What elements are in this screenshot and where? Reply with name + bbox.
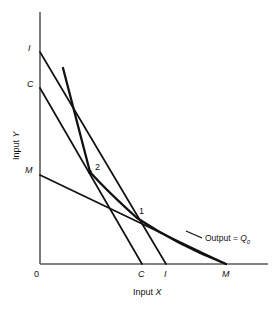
- output-annotation-symbol: Q: [240, 233, 247, 243]
- x-intercept-label-m: M: [222, 270, 230, 279]
- point-2-label: 2: [95, 163, 100, 172]
- diagram-canvas: [0, 0, 278, 315]
- x-axis-title: Input X: [133, 288, 162, 297]
- point-2-marker: [88, 170, 92, 174]
- y-intercept-label-c: C: [27, 80, 34, 89]
- isocost-line-c: [40, 88, 142, 264]
- isoquant-curve-q0: [63, 68, 226, 264]
- x-intercept-label-c: C: [138, 270, 145, 279]
- y-intercept-label-i: I: [28, 44, 31, 53]
- isoquant-isocost-figure: I C M 0 C I M 2 1 Output = Q0 Input Y In…: [0, 0, 278, 315]
- y-intercept-label-m: M: [25, 166, 33, 175]
- isocost-line-i: [40, 52, 166, 264]
- x-axis-title-text: Input X: [133, 287, 162, 297]
- output-annotation-subscript: 0: [247, 239, 250, 245]
- y-axis-title-text: Input Y: [11, 131, 21, 160]
- point-1-label: 1: [139, 207, 144, 216]
- output-leader-line: [186, 231, 202, 238]
- isocost-line-m: [40, 175, 226, 264]
- origin-label: 0: [34, 270, 39, 279]
- output-annotation-text: Output =: [205, 233, 240, 243]
- y-axis-title: Input Y: [12, 131, 21, 160]
- output-annotation: Output = Q0: [205, 234, 250, 245]
- x-intercept-label-i: I: [164, 270, 167, 279]
